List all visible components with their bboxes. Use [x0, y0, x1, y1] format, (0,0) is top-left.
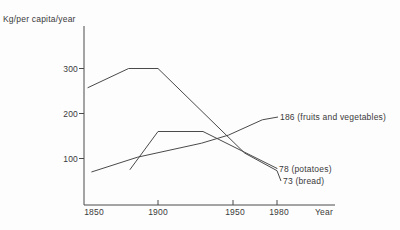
x-tick-label-1900: 1900	[148, 207, 168, 217]
series-end-label-potatoes: 78 (potatoes)	[279, 164, 332, 174]
y-tick-label-200: 200	[63, 109, 78, 119]
x-axis-title: Year	[315, 207, 333, 217]
series-end-label-bread: 73 (bread)	[283, 176, 324, 186]
consumption-line-chart: Kg/per capita/year 100200300185019001950…	[0, 0, 400, 230]
x-tick-label-1980: 1980	[269, 207, 289, 217]
series-line-potatoes	[130, 132, 277, 170]
x-tick-label-1950: 1950	[225, 207, 245, 217]
y-tick-label-100: 100	[63, 154, 78, 164]
line-chart-canvas: 100200300185019001950198073 (bread)78 (p…	[0, 0, 400, 230]
x-tick-label-1850: 1850	[84, 207, 104, 217]
series-line-bread	[88, 69, 277, 171]
series-leader-fruits	[262, 117, 278, 120]
y-tick-label-300: 300	[63, 64, 78, 74]
series-end-label-fruits: 186 (fruits and vegetables)	[280, 112, 386, 122]
